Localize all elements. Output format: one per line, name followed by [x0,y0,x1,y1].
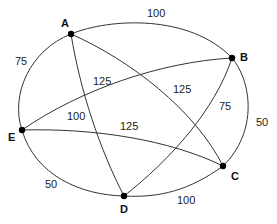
weight-e-c: 125 [120,120,138,132]
weight-a-c: 125 [173,83,191,95]
node-c [220,163,226,169]
edge-a-c [71,34,223,166]
edge-a-b [71,23,232,58]
node-d [121,193,127,199]
weight-c-d: 100 [177,194,195,206]
node-label-a: A [61,17,69,29]
edge-e-c [22,130,223,166]
node-label-d: D [120,203,128,215]
node-label-e: E [8,131,15,143]
weight-e-a: 75 [15,55,27,67]
edge-b-c [223,58,248,166]
weight-b-e: 125 [93,75,111,87]
edge-b-d [124,58,232,196]
node-label-c: C [231,170,239,182]
node-a [68,31,74,37]
node-e [19,127,25,133]
weight-a-d: 100 [67,110,85,122]
node-b [229,55,235,61]
weight-b-d: 75 [219,100,231,112]
weight-d-e: 50 [45,178,57,190]
edge-c-d [124,166,223,196]
graph-diagram: A B C D E 100 50 100 50 75 125 100 125 7… [0,0,277,224]
weight-b-c: 50 [256,116,268,128]
weight-a-b: 100 [147,7,165,19]
node-label-b: B [240,51,248,63]
